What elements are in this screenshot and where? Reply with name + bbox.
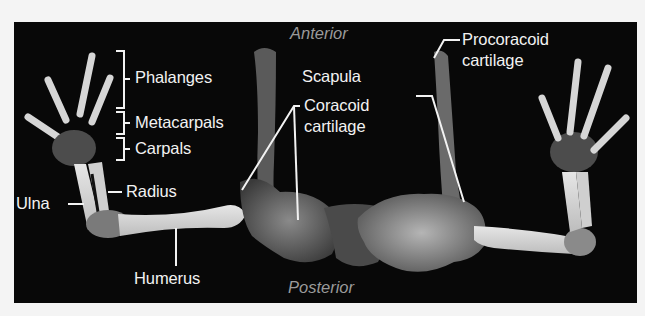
label-carpals: Carpals bbox=[135, 139, 191, 158]
label-ulna: Ulna bbox=[16, 194, 50, 213]
orientation-posterior: Posterior bbox=[288, 278, 354, 297]
left-hand bbox=[28, 56, 110, 137]
label-procoracoid-cartilage-line2: cartilage bbox=[462, 51, 523, 70]
label-coracoid-cartilage-line2: cartilage bbox=[304, 117, 365, 136]
label-phalanges: Phalanges bbox=[135, 68, 212, 87]
label-metacarpals: Metacarpals bbox=[135, 113, 224, 132]
left-carpals bbox=[52, 130, 96, 166]
label-humerus: Humerus bbox=[134, 269, 200, 288]
specimen-photo-panel: Anterior Posterior Phalanges Metacarpals… bbox=[14, 22, 637, 303]
orientation-anterior: Anterior bbox=[290, 24, 348, 43]
label-procoracoid-cartilage-line1: Procoracoid bbox=[462, 30, 549, 49]
label-radius: Radius bbox=[126, 182, 177, 201]
label-coracoid-cartilage-line1: Coracoid bbox=[304, 96, 369, 115]
label-scapula: Scapula bbox=[302, 67, 361, 86]
skeleton-illustration bbox=[14, 22, 637, 303]
